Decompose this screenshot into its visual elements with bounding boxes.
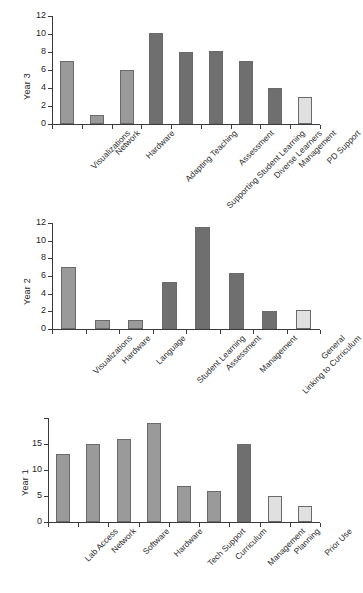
y-tick-year1-20 xyxy=(44,418,48,419)
bar-year2-0 xyxy=(61,267,76,329)
y-tick-label-year1-5: 5 xyxy=(14,490,42,500)
x-tick-year1-5 xyxy=(199,523,200,527)
x-tick-year3-0 xyxy=(52,125,53,129)
bar-year3-8 xyxy=(298,97,312,124)
y-tick-label-year1-15: 15 xyxy=(14,438,42,448)
y-tick-label-year3-2: 2 xyxy=(18,100,46,110)
y-tick-label-year3-4: 4 xyxy=(18,82,46,92)
x-tick-year2-2 xyxy=(119,330,120,334)
y-tick-label-year2-8: 8 xyxy=(18,252,46,262)
bar-year3-7 xyxy=(268,88,282,124)
x-tick-year3-5 xyxy=(201,125,202,129)
bar-year3-1 xyxy=(90,115,104,124)
x-tick-year1-end xyxy=(320,523,321,527)
bar-year1-1 xyxy=(86,444,100,522)
x-tick-year3-2 xyxy=(112,125,113,129)
y-tick-year2-2 xyxy=(48,311,52,312)
x-tick-year1-0 xyxy=(48,523,49,527)
bar-year2-4 xyxy=(195,227,210,329)
x-tick-year2-6 xyxy=(253,330,254,334)
y-tick-year2-10 xyxy=(48,241,52,242)
plot-area-year1: Year 1051015Lab AccessNetworkSoftwareHar… xyxy=(0,400,345,593)
x-tick-year2-5 xyxy=(220,330,221,334)
bar-year3-5 xyxy=(209,51,223,124)
y-tick-year2-6 xyxy=(48,276,52,277)
x-tick-label-year2-5: Management xyxy=(257,333,299,375)
y-tick-year1-5 xyxy=(44,496,48,497)
x-tick-year3-1 xyxy=(82,125,83,129)
y-tick-label-year3-8: 8 xyxy=(18,46,46,56)
y-tick-label-year3-10: 10 xyxy=(18,28,46,38)
bar-year3-4 xyxy=(179,52,193,124)
y-tick-label-year2-6: 6 xyxy=(18,270,46,280)
x-tick-year2-0 xyxy=(52,330,53,334)
x-tick-year1-4 xyxy=(169,523,170,527)
y-axis-line-year1 xyxy=(48,418,49,522)
y-tick-year1-15 xyxy=(44,444,48,445)
bar-year3-3 xyxy=(149,33,163,124)
y-tick-label-year3-12: 12 xyxy=(18,10,46,20)
y-tick-label-year3-6: 6 xyxy=(18,64,46,74)
x-tick-label-year1-8: Prior Use xyxy=(322,526,354,558)
bar-year1-6 xyxy=(237,444,251,522)
bar-year1-7 xyxy=(268,496,282,522)
y-tick-label-year2-0: 0 xyxy=(18,323,46,333)
y-tick-year3-10 xyxy=(48,34,52,35)
bar-year1-0 xyxy=(56,454,70,522)
chart-panel-year1: Year 1051015Lab AccessNetworkSoftwareHar… xyxy=(0,400,345,593)
x-tick-label-year3-2: Hardware xyxy=(144,128,177,161)
y-tick-label-year2-12: 12 xyxy=(18,217,46,227)
x-tick-label-year1-2: Software xyxy=(141,526,171,556)
bar-year1-2 xyxy=(117,439,131,522)
bar-year2-6 xyxy=(262,311,277,329)
x-tick-year2-1 xyxy=(86,330,87,334)
x-tick-year1-2 xyxy=(108,523,109,527)
y-tick-year2-12 xyxy=(48,223,52,224)
y-tick-label-year2-4: 4 xyxy=(18,288,46,298)
x-tick-year3-7 xyxy=(260,125,261,129)
chart-panel-year2: Year 2024681012VisualizationsHardwareLan… xyxy=(0,205,345,400)
x-tick-label-year2-2: Language xyxy=(154,333,187,366)
x-tick-year1-1 xyxy=(78,523,79,527)
x-tick-label-year1-3: Hardware xyxy=(172,526,205,559)
x-tick-year3-8 xyxy=(290,125,291,129)
x-tick-year3-3 xyxy=(141,125,142,129)
y-tick-year2-8 xyxy=(48,258,52,259)
bar-year1-3 xyxy=(147,423,161,522)
x-tick-label-year3-3: Adapting Teaching xyxy=(183,128,239,184)
x-tick-year3-4 xyxy=(171,125,172,129)
bar-year3-0 xyxy=(60,61,74,124)
plot-area-year2: Year 2024681012VisualizationsHardwareLan… xyxy=(0,205,345,400)
bar-year2-2 xyxy=(128,320,143,329)
y-tick-label-year2-2: 2 xyxy=(18,305,46,315)
bar-year1-5 xyxy=(207,491,221,522)
bar-year1-4 xyxy=(177,486,191,522)
bar-year3-2 xyxy=(120,70,134,124)
y-tick-year3-8 xyxy=(48,52,52,53)
y-tick-label-year1-10: 10 xyxy=(14,464,42,474)
x-tick-year1-6 xyxy=(229,523,230,527)
y-tick-label-year2-10: 10 xyxy=(18,235,46,245)
x-axis-line-year1 xyxy=(48,522,320,523)
x-tick-year1-8 xyxy=(290,523,291,527)
y-tick-label-year1-0: 0 xyxy=(14,516,42,526)
x-axis-line-year3 xyxy=(52,124,320,125)
y-axis-line-year3 xyxy=(52,16,53,124)
bar-year2-1 xyxy=(95,320,110,329)
y-tick-year3-12 xyxy=(48,16,52,17)
y-axis-line-year2 xyxy=(52,223,53,329)
chart-panel-year3: Year 3024681012VisualizationsNetworkHard… xyxy=(0,0,345,205)
x-tick-year2-end xyxy=(320,330,321,334)
x-tick-year1-7 xyxy=(260,523,261,527)
x-tick-year3-6 xyxy=(231,125,232,129)
y-tick-year1-10 xyxy=(44,470,48,471)
bar-year2-5 xyxy=(229,273,244,329)
y-tick-year3-2 xyxy=(48,106,52,107)
y-tick-year3-6 xyxy=(48,70,52,71)
bar-year2-7 xyxy=(296,310,311,329)
bar-year1-8 xyxy=(298,506,312,522)
x-tick-year3-end xyxy=(320,125,321,129)
plot-area-year3: Year 3024681012VisualizationsNetworkHard… xyxy=(0,0,345,205)
bar-year3-6 xyxy=(239,61,253,124)
